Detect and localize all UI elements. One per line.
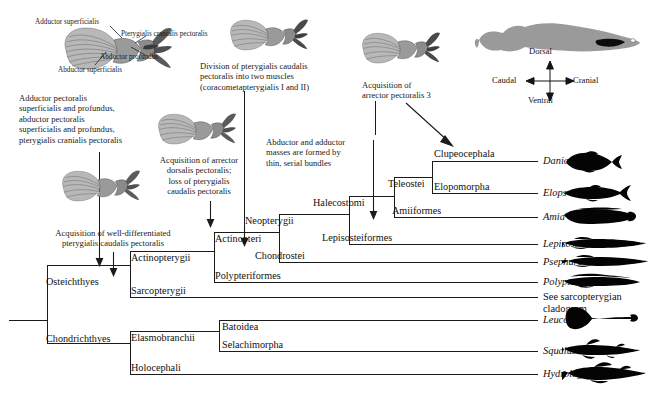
silhouette-leucoraja bbox=[562, 305, 638, 331]
branch-amiiformes bbox=[394, 217, 538, 218]
muscle-label-adductor-superficialis: Adductor superficialis bbox=[35, 18, 99, 26]
node-elasmobranchii bbox=[219, 320, 220, 351]
annotation-arrector-3-stem bbox=[375, 101, 376, 135]
branch-clupeocephala bbox=[432, 161, 538, 162]
muscle-label-abductor-superficialis: Abductor superficialis bbox=[58, 66, 122, 74]
clade-label-batoidea: Batoidea bbox=[222, 321, 258, 333]
clade-label-osteichthyes: Osteichthyes bbox=[46, 276, 99, 288]
clade-label-elopomorpha: Elopomorpha bbox=[434, 181, 489, 193]
annotation-serial-bundles-arrow bbox=[366, 199, 382, 221]
clade-label-teleostei: Teleostei bbox=[388, 178, 425, 190]
annotation-division-pterygialis: Division of pterygialis caudalis pectora… bbox=[200, 61, 348, 92]
branch-elopomorpha bbox=[432, 193, 538, 194]
clade-label-halecostomi: Halecostomi bbox=[313, 197, 365, 209]
branch-lepisosteiformes bbox=[349, 244, 538, 245]
annotation-serial-bundles-stem bbox=[373, 140, 374, 202]
fin-illustration-division-pterygialis bbox=[224, 12, 308, 56]
annotation-arrector-dorsalis: Acquisition of arrector dorsalis pectora… bbox=[144, 155, 254, 197]
silhouette-squalus bbox=[562, 338, 642, 360]
branch-holocephali bbox=[130, 374, 538, 375]
annotation-well-differentiated-pterygialis: Acquisition of well-differentiated ptery… bbox=[34, 228, 192, 249]
annotation-serial-bundles: Abductor and adductor masses are formed … bbox=[266, 137, 386, 168]
node-teleostei bbox=[432, 161, 433, 193]
annotation-arrector-pectoralis-3: Acquisition of arrector pectoralis 3 bbox=[362, 80, 472, 101]
silhouette-amia bbox=[562, 206, 636, 226]
silhouette-polypterus bbox=[562, 272, 640, 290]
clade-label-clupeocephala: Clupeocephala bbox=[434, 148, 495, 160]
orientation-label-caudal: Caudal bbox=[492, 76, 516, 86]
fin-illustration-arrector-dorsalis bbox=[152, 106, 236, 150]
silhouette-lepisosteus bbox=[562, 234, 646, 252]
branch-sarcopterygii bbox=[130, 297, 538, 298]
clade-label-sarcopterygii: Sarcopterygii bbox=[131, 285, 186, 297]
branch-batoidea bbox=[219, 320, 538, 321]
annotation-arrector-dorsalis-arrow bbox=[203, 201, 219, 229]
branch-osteichthyes bbox=[47, 265, 130, 266]
fin-illustration-pterygialis-caudalis bbox=[56, 163, 140, 207]
clade-label-neopterygii: Neopterygii bbox=[245, 215, 294, 227]
branch-polypteriformes bbox=[214, 282, 538, 283]
clade-label-elasmobranchii: Elasmobranchii bbox=[131, 332, 195, 344]
muscle-label-pterygialis-cranialis-pectoralis: Pterygialis cranialis pectoralis bbox=[121, 30, 208, 38]
fin-illustration-arrector-pectoralis-3 bbox=[356, 25, 440, 69]
clade-label-actinopterygii: Actinopterygii bbox=[131, 252, 190, 264]
branch-selachimorpha bbox=[219, 351, 538, 352]
branch-chondrostei bbox=[279, 262, 538, 263]
branch-root bbox=[9, 320, 47, 321]
clade-label-selachimorpha: Selachimorpha bbox=[222, 339, 283, 351]
clade-label-actinopteri: Actinopteri bbox=[215, 233, 261, 245]
cladogram-figure: Adductor superficialis Pterygialis crani… bbox=[0, 0, 657, 394]
clade-label-polypteriformes: Polypteriformes bbox=[215, 270, 281, 282]
clade-label-lepisosteiformes: Lepisosteiformes bbox=[322, 232, 392, 244]
silhouette-elops bbox=[562, 182, 638, 204]
orientation-label-cranial: Cranial bbox=[573, 76, 598, 86]
clade-label-amiiformes: Amiiformes bbox=[392, 205, 441, 217]
clade-label-chondrichthyes: Chondrichthyes bbox=[46, 333, 111, 345]
clade-label-holocephali: Holocephali bbox=[131, 362, 181, 374]
annotation-arrector-3-arrow bbox=[404, 101, 460, 153]
orientation-label-dorsal: Dorsal bbox=[529, 47, 552, 57]
muscle-label-abductor-profundus: Abductor profundus bbox=[100, 53, 158, 61]
annotation-division-stem bbox=[244, 91, 245, 229]
silhouette-psephurus bbox=[562, 252, 648, 270]
orientation-label-ventral: Ventral bbox=[528, 96, 553, 106]
silhouette-danio bbox=[562, 150, 634, 174]
clade-label-chondrostei: Chondrostei bbox=[255, 250, 305, 262]
silhouette-hydrolagus bbox=[562, 361, 646, 385]
